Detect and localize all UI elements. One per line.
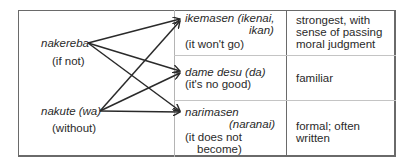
source-term: nakute (wa)	[41, 105, 101, 117]
target-term: narimasen	[185, 106, 239, 118]
target-term: dame desu (da)	[185, 66, 266, 78]
source-gloss: (if not)	[52, 55, 85, 67]
note-line: sense of passing	[296, 26, 382, 38]
target-gloss-cont: become)	[197, 143, 242, 155]
note-line: formal; often	[296, 120, 360, 132]
target-gloss: (it won't go)	[185, 38, 244, 50]
note-line: strongest, with	[296, 14, 370, 26]
note-line: moral judgment	[296, 38, 375, 50]
target-gloss: (it's no good)	[185, 78, 251, 90]
note-line: familiar	[296, 72, 333, 84]
target-term-cont: (naranai)	[229, 118, 275, 130]
source-term: nakereba	[41, 37, 89, 49]
target-term-cont: ikan)	[249, 24, 274, 36]
target-term: ikemasen (ikenai,	[185, 12, 274, 24]
source-gloss: (without)	[52, 122, 96, 134]
note-line: written	[296, 132, 330, 144]
target-gloss: (it does not	[185, 131, 242, 143]
